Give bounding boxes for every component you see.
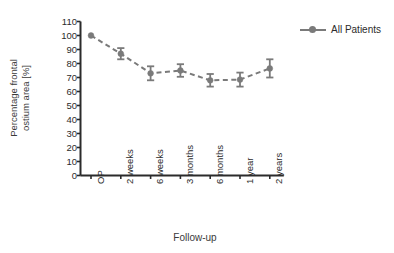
data-point-marker bbox=[267, 66, 273, 72]
data-point-marker bbox=[237, 77, 243, 83]
data-point-marker bbox=[118, 51, 124, 57]
plot-area bbox=[0, 0, 394, 253]
chart-figure: Percentage frontal ostium area [%] 01020… bbox=[0, 0, 394, 253]
data-point-marker bbox=[207, 77, 213, 83]
data-point-marker bbox=[88, 33, 94, 39]
data-point-marker bbox=[178, 68, 184, 74]
data-point-marker bbox=[148, 70, 154, 76]
